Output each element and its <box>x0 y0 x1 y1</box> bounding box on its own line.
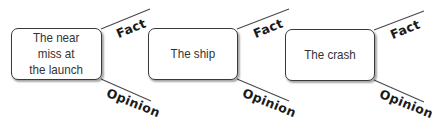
topic-line: The near <box>30 30 84 46</box>
topic-label: The ship <box>171 46 216 62</box>
topic-box-near-miss: The near miss at the launch <box>11 28 102 80</box>
topic-label: The crash <box>304 47 356 63</box>
topic-box-ship: The ship <box>148 28 238 80</box>
topic-box-crash: The crash <box>285 29 375 81</box>
fact-opinion-diagram: The near miss at the launch The ship The… <box>0 0 437 119</box>
topic-line: miss at <box>30 46 84 62</box>
topic-line: the launch <box>30 62 84 78</box>
